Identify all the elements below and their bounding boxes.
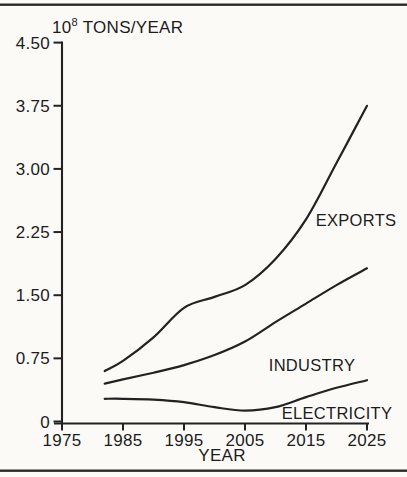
y-tick-label: 2.25: [16, 223, 50, 242]
series-labels: EXPORTSINDUSTRYELECTRICITY: [269, 211, 397, 422]
y-tick-label: 0.75: [16, 349, 50, 368]
x-tick-label: 2025: [347, 431, 386, 450]
unit-base: 10: [52, 18, 72, 37]
chart-canvas: 108 TONS/YEAR 00.751.502.253.003.754.50 …: [0, 0, 407, 477]
bottom-rule: [0, 470, 407, 472]
y-tick-label: 3.75: [16, 97, 50, 116]
series-label-exports: EXPORTS: [316, 211, 397, 229]
y-tick-label: 1.50: [16, 286, 50, 305]
y-axis-ticks: 00.751.502.253.003.754.50: [16, 34, 62, 432]
y-tick-label: 0: [40, 413, 50, 432]
coal-projection-figure: 108 TONS/YEAR 00.751.502.253.003.754.50 …: [0, 0, 407, 477]
x-tick-label: 2015: [286, 431, 325, 450]
y-tick-label: 4.50: [16, 34, 50, 53]
y-tick-label: 3.00: [16, 160, 50, 179]
series-label-electricity: ELECTRICITY: [282, 404, 393, 422]
x-axis-title: YEAR: [198, 446, 246, 465]
x-tick-label: 1975: [42, 431, 81, 450]
series-label-industry: INDUSTRY: [269, 356, 355, 374]
x-tick-label: 1985: [103, 431, 142, 450]
series-line-exports: [105, 106, 367, 371]
chart-unit-label: 108 TONS/YEAR: [52, 16, 183, 37]
unit-rest: TONS/YEAR: [78, 18, 183, 37]
top-rule: [0, 4, 407, 6]
